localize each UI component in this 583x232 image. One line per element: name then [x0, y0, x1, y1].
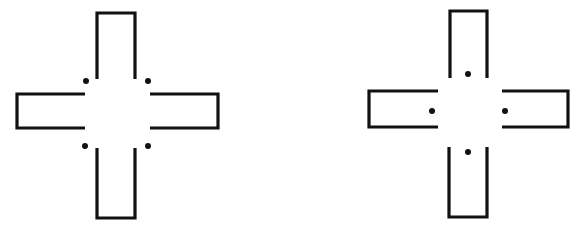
right-cross-dot [502, 108, 508, 114]
right-cross-dot [465, 71, 471, 77]
right-cross-dot [429, 108, 435, 114]
left-cross-dot [145, 78, 151, 84]
left-cross-dot [83, 78, 89, 84]
background [0, 0, 583, 232]
diagram-canvas [0, 0, 583, 232]
left-cross-dot [145, 143, 151, 149]
right-cross-dot [465, 149, 471, 155]
left-cross-dot [82, 143, 88, 149]
